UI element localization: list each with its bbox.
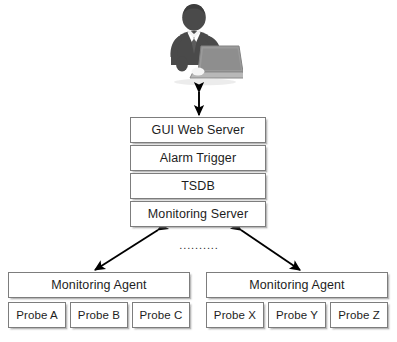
node-probe-x-label: Probe X: [214, 309, 256, 321]
node-monitoring-server[interactable]: Monitoring Server: [130, 201, 266, 227]
agents-ellipsis: ..........: [176, 240, 222, 250]
node-monitoring-agent-left-label: Monitoring Agent: [51, 278, 146, 292]
node-monitoring-agent-right-label: Monitoring Agent: [249, 278, 344, 292]
node-gui-web-server[interactable]: GUI Web Server: [130, 117, 266, 143]
node-probe-b[interactable]: Probe B: [70, 302, 128, 328]
monitoring-agent-left-group: Monitoring Agent Probe A Probe B Probe C: [8, 272, 190, 334]
connector-server-to-agent-right: [241, 230, 300, 270]
monitoring-agent-right-group: Monitoring Agent Probe X Probe Y Probe Z: [206, 272, 388, 334]
node-monitoring-agent-right[interactable]: Monitoring Agent: [206, 272, 388, 298]
node-probe-c-label: Probe C: [140, 309, 183, 321]
node-probe-a[interactable]: Probe A: [8, 302, 66, 328]
node-probe-a-label: Probe A: [16, 309, 58, 321]
node-alarm-trigger-label: Alarm Trigger: [160, 151, 236, 165]
businessman-with-laptop-icon: [157, 2, 243, 86]
node-probe-y[interactable]: Probe Y: [268, 302, 326, 328]
node-gui-web-server-label: GUI Web Server: [152, 123, 245, 137]
node-probe-b-label: Probe B: [78, 309, 120, 321]
node-tsdb-label: TSDB: [181, 179, 215, 193]
node-probe-y-label: Probe Y: [276, 309, 318, 321]
node-probe-c[interactable]: Probe C: [132, 302, 190, 328]
node-tsdb[interactable]: TSDB: [130, 173, 266, 199]
node-probe-z-label: Probe Z: [338, 309, 380, 321]
node-monitoring-server-label: Monitoring Server: [148, 207, 248, 221]
probe-row-right: Probe X Probe Y Probe Z: [206, 302, 388, 328]
architecture-diagram: GUI Web Server Alarm Trigger TSDB Monito…: [0, 0, 397, 342]
node-alarm-trigger[interactable]: Alarm Trigger: [130, 145, 266, 171]
node-probe-x[interactable]: Probe X: [206, 302, 264, 328]
connector-server-to-agent-left: [95, 230, 158, 270]
node-monitoring-agent-left[interactable]: Monitoring Agent: [8, 272, 190, 298]
node-probe-z[interactable]: Probe Z: [330, 302, 388, 328]
probe-row-left: Probe A Probe B Probe C: [8, 302, 190, 328]
